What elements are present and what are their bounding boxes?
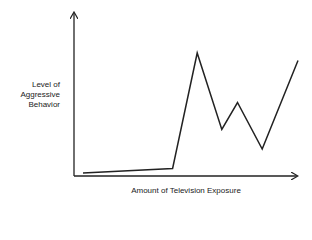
y-axis-label: Level of Aggressive Behavior (4, 80, 60, 110)
x-axis-label: Amount of Television Exposure (74, 186, 298, 195)
y-label-line-2: Aggressive (4, 90, 60, 100)
y-label-line-3: Behavior (4, 100, 60, 110)
y-label-line-1: Level of (4, 80, 60, 90)
aggression-line (83, 53, 298, 173)
